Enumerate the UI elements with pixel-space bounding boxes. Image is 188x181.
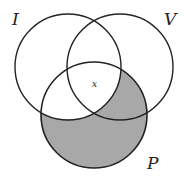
label-p: P [146, 153, 159, 173]
center-label-x: x [92, 79, 97, 89]
label-i: I [11, 9, 19, 29]
label-v: V [164, 9, 178, 29]
shaded-region-p-minus-i [0, 0, 188, 181]
venn-diagram: I V P x [0, 0, 188, 181]
